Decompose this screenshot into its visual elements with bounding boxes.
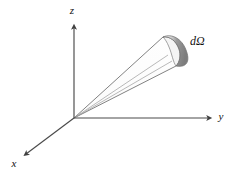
solid-angle-label: dΩ	[190, 34, 205, 48]
x-axis-line	[26, 118, 74, 154]
cone-body-fill	[74, 37, 176, 118]
y-axis-label: y	[218, 110, 224, 122]
solid-angle-cone	[74, 37, 176, 118]
figure-canvas: z y x dΩ	[0, 0, 235, 178]
solid-angle-figure: z y x dΩ	[0, 0, 235, 178]
cone-inner-ray-2	[74, 61, 172, 118]
x-axis-label: x	[11, 157, 17, 169]
z-axis-label: z	[69, 4, 75, 16]
cone-inner-ray-1	[74, 55, 168, 118]
